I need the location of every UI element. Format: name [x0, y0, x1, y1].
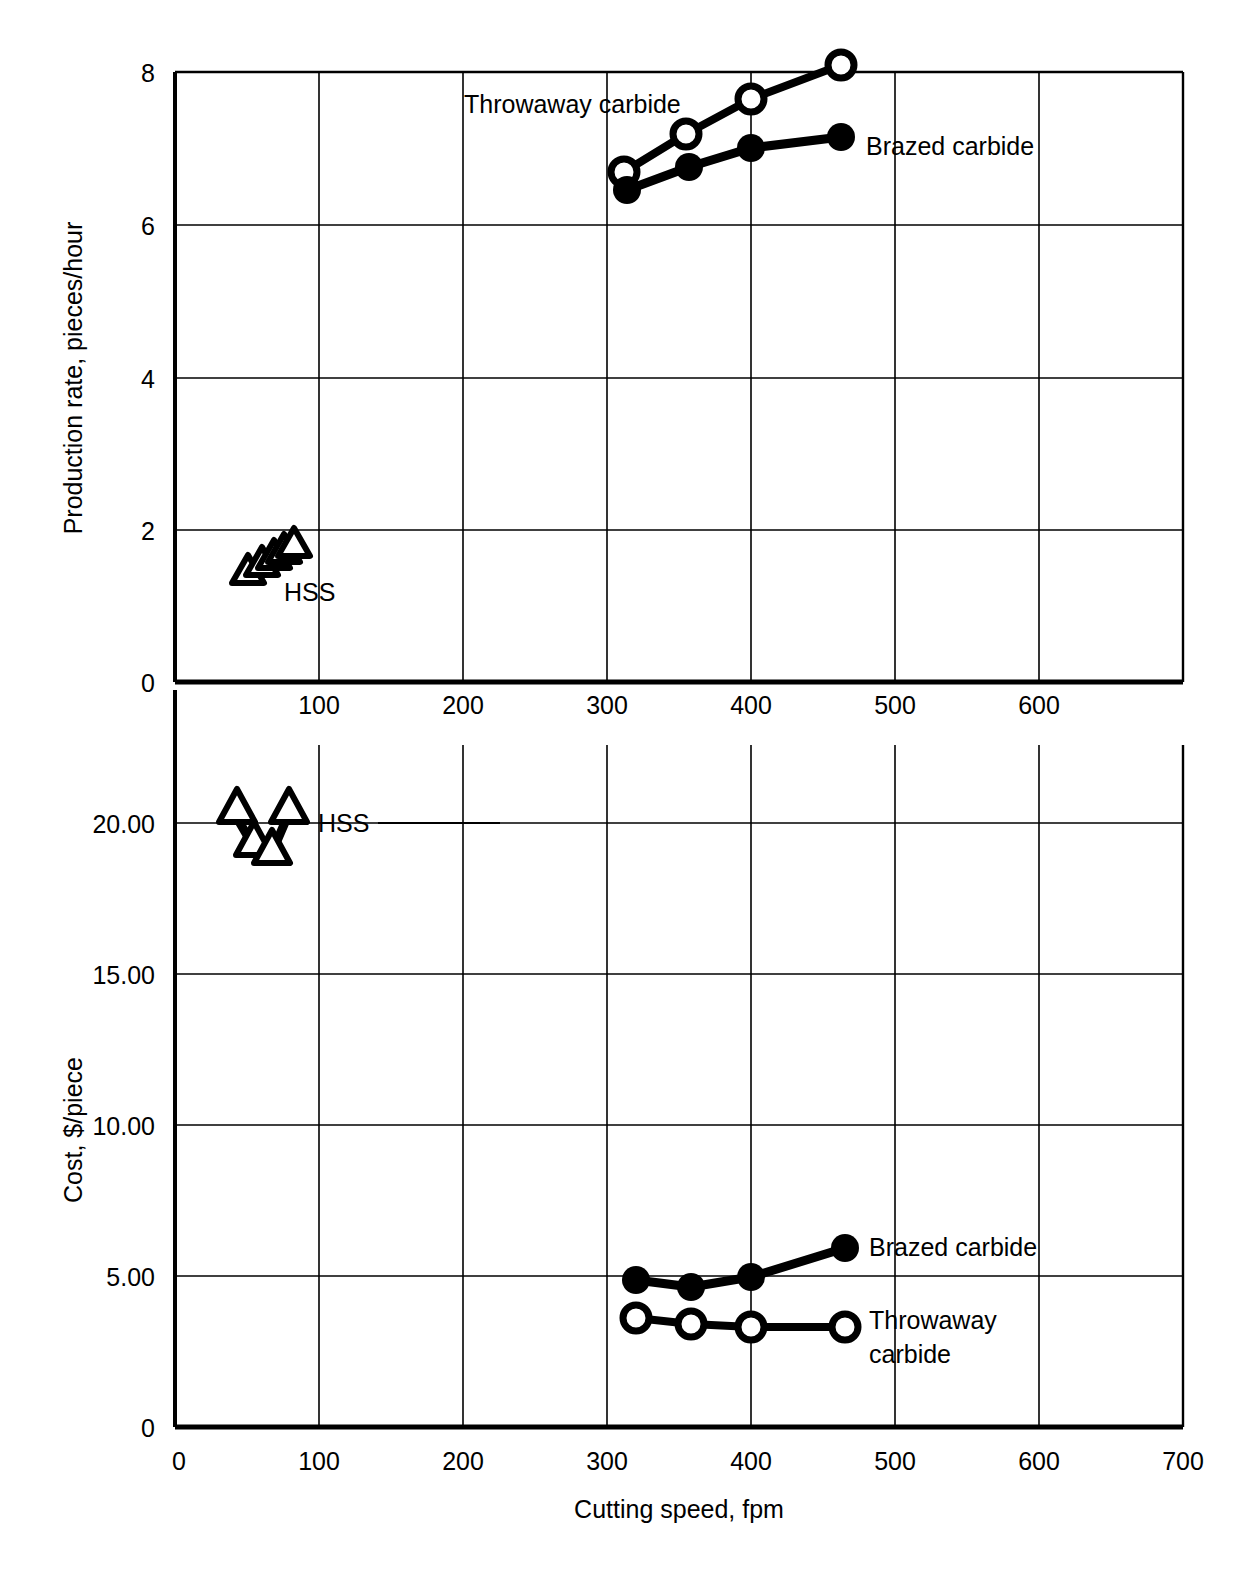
figure-container: 8 6 4 2 0 100 200 300 400 500 600 Produc…	[0, 0, 1257, 1586]
bottom-xtick-200: 200	[442, 1447, 484, 1475]
top-ytick-8: 8	[141, 59, 155, 87]
bottom-ytick-5: 5.00	[106, 1263, 155, 1291]
bottom-grid-horizontal	[175, 823, 1183, 1276]
bottom-ytick-15: 15.00	[92, 961, 155, 989]
label-hss-top: HSS	[284, 578, 335, 606]
top-ytick-2: 2	[141, 517, 155, 545]
bottom-ytick-0: 0	[141, 1414, 155, 1442]
top-grid-horizontal	[175, 225, 1183, 530]
series-throwaway-bottom	[623, 1305, 858, 1340]
label-throwaway-carbide-top: Throwaway carbide	[464, 90, 681, 118]
label-throwaway-carbide-bottom-line2: carbide	[869, 1340, 951, 1368]
series-brazed-bottom	[622, 1234, 859, 1301]
bottom-xtick-500: 500	[874, 1447, 916, 1475]
label-hss-bottom: HSS	[318, 809, 369, 837]
top-xtick-200: 200	[442, 691, 484, 719]
top-y-axis-title: Production rate, pieces/hour	[59, 222, 87, 535]
top-xtick-400: 400	[730, 691, 772, 719]
series-hss-top	[232, 528, 310, 583]
top-xtick-500: 500	[874, 691, 916, 719]
bottom-xtick-300: 300	[586, 1447, 628, 1475]
bottom-y-axis-title: Cost, $/piece	[59, 1057, 87, 1203]
bottom-xtick-400: 400	[730, 1447, 772, 1475]
bottom-xtick-600: 600	[1018, 1447, 1060, 1475]
top-xtick-100: 100	[298, 691, 340, 719]
top-ytick-6: 6	[141, 212, 155, 240]
bottom-xtick-0: 0	[172, 1447, 186, 1475]
panel-cost: 20.00 15.00 10.00 5.00 0 0 100 200 300 4…	[59, 690, 1204, 1523]
top-ytick-4: 4	[141, 365, 155, 393]
series-hss-bottom	[219, 789, 307, 863]
series-brazed-top	[613, 123, 855, 204]
bottom-xtick-100: 100	[298, 1447, 340, 1475]
label-throwaway-carbide-bottom-line1: Throwaway	[869, 1306, 997, 1334]
top-ytick-0: 0	[141, 669, 155, 697]
top-xtick-300: 300	[586, 691, 628, 719]
panel-production-rate: 8 6 4 2 0 100 200 300 400 500 600 Produc…	[59, 52, 1183, 719]
bottom-ytick-20: 20.00	[92, 810, 155, 838]
top-xtick-600: 600	[1018, 691, 1060, 719]
chart-svg: 8 6 4 2 0 100 200 300 400 500 600 Produc…	[0, 0, 1257, 1586]
label-brazed-carbide-top: Brazed carbide	[866, 132, 1034, 160]
label-brazed-carbide-bottom: Brazed carbide	[869, 1233, 1037, 1261]
x-axis-title: Cutting speed, fpm	[574, 1495, 784, 1523]
bottom-ytick-10: 10.00	[92, 1112, 155, 1140]
bottom-xtick-700: 700	[1162, 1447, 1204, 1475]
